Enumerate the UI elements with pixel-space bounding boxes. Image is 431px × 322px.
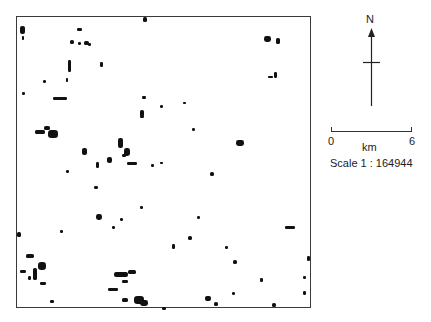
scale-end-label: 6: [409, 136, 415, 147]
scale-unit-label: km: [362, 142, 377, 153]
scale-start-label: 0: [328, 136, 334, 147]
scale-ratio-label: Scale 1 : 164944: [330, 158, 413, 169]
scale-bar: [331, 127, 412, 132]
north-arrow-icon: [363, 28, 380, 106]
north-label: N: [366, 14, 374, 25]
